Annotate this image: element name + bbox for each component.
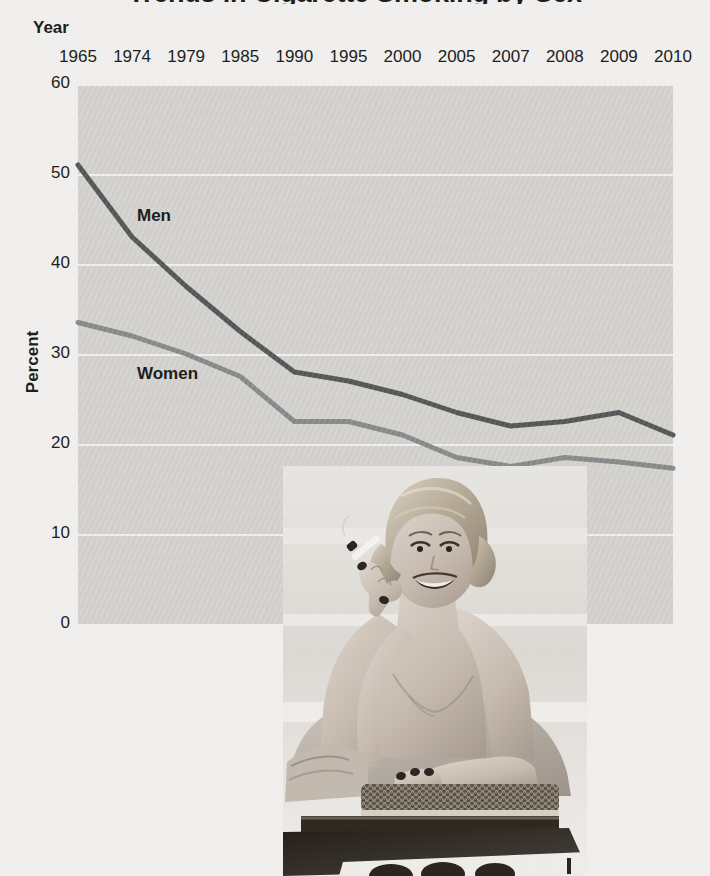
- x-tick-label: 1990: [264, 47, 324, 67]
- x-axis-tick-labels: 1965197419791985199019952000200520072008…: [0, 47, 710, 71]
- figure-container: Trends in Cigarette Smoking by Sex Year …: [0, 0, 710, 876]
- chart-title: Trends in Cigarette Smoking by Sex: [0, 0, 710, 4]
- x-tick-label: 2009: [589, 47, 649, 67]
- y-tick-label: 10: [10, 523, 70, 543]
- vintage-smoking-photo: [283, 466, 587, 876]
- x-tick-label: 1974: [102, 47, 162, 67]
- x-axis-title: Year: [33, 18, 69, 38]
- series-line-women: [78, 323, 673, 469]
- x-tick-label: 2008: [535, 47, 595, 67]
- series-label-men: Men: [137, 206, 171, 226]
- y-tick-label: 50: [10, 163, 70, 183]
- y-tick-label: 30: [10, 343, 70, 363]
- y-tick-label: 40: [10, 253, 70, 273]
- series-label-women: Women: [137, 364, 198, 384]
- x-tick-label: 1965: [48, 47, 108, 67]
- y-tick-label: 60: [10, 73, 70, 93]
- x-tick-label: 2007: [481, 47, 541, 67]
- y-tick-label: 20: [10, 433, 70, 453]
- x-tick-label: 2005: [427, 47, 487, 67]
- x-tick-label: 2010: [643, 47, 703, 67]
- x-tick-label: 1979: [156, 47, 216, 67]
- x-tick-label: 1995: [318, 47, 378, 67]
- x-tick-label: 1985: [210, 47, 270, 67]
- y-tick-label: 0: [10, 613, 70, 633]
- x-tick-label: 2000: [373, 47, 433, 67]
